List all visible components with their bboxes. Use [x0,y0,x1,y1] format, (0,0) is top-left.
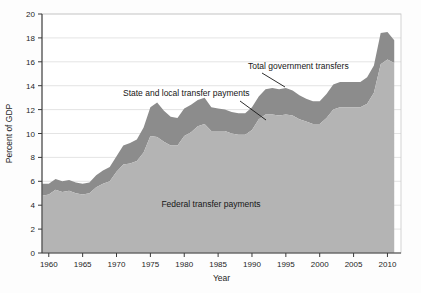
annotation-state-and-local-transfer-payments: State and local transfer payments [123,88,250,98]
x-tick-label: 1995 [277,260,295,269]
x-tick-label: 1960 [40,260,58,269]
x-tick-label: 2010 [379,260,397,269]
y-tick-label: 8 [31,153,36,162]
y-axis-title: Percent of GDP [4,103,14,163]
chart-figure: 0246810121416182019601965197019751980198… [0,0,421,293]
y-tick-label: 10 [26,130,35,139]
x-tick-label: 1970 [108,260,126,269]
y-tick-label: 6 [31,177,36,186]
y-tick-label: 14 [26,82,35,91]
x-tick-label: 1985 [209,260,227,269]
y-tick-label: 16 [26,58,35,67]
annotation-federal-transfer-payments: Federal transfer payments [161,199,260,209]
x-tick-label: 2005 [345,260,363,269]
x-tick-label: 2000 [311,260,329,269]
x-axis-title: Year [213,273,230,283]
y-tick-label: 0 [31,249,36,258]
y-tick-label: 2 [31,225,36,234]
x-tick-label: 1965 [74,260,92,269]
x-tick-label: 1980 [175,260,193,269]
x-tick-label: 1975 [141,260,159,269]
area-chart: 0246810121416182019601965197019751980198… [0,0,421,293]
annotation-total-government-transfers: Total government transfers [248,61,349,71]
y-tick-label: 18 [26,34,35,43]
y-tick-label: 12 [26,106,35,115]
x-tick-label: 1990 [243,260,261,269]
y-tick-label: 20 [26,10,35,19]
y-tick-label: 4 [31,201,36,210]
